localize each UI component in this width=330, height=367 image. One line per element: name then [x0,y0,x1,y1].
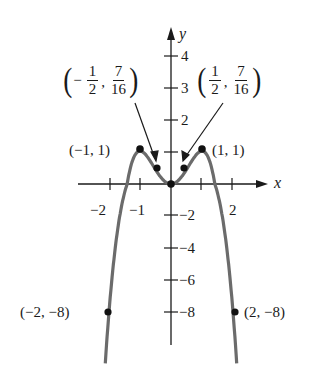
point-pos-half [180,164,187,171]
y-tick-3: 3 [181,81,189,96]
label-neg2-neg8: (−2, −8) [20,305,69,320]
fraction-x: 12 [209,64,221,97]
point-pos2-neg8 [231,308,238,315]
x-tick-2: 2 [229,203,237,218]
x-axis-label: x [274,175,281,190]
point-neg-half [153,164,160,171]
point-neg1-1 [136,145,144,153]
x-axis-arrow-icon [256,180,268,188]
label-pos2-neg8: (2, −8) [244,305,285,320]
point-neg2-neg8 [104,308,111,315]
point-origin [167,180,175,188]
y-tick-4: 4 [181,49,189,64]
fraction-x: 12 [87,64,99,97]
y-tick-neg4: −4 [179,241,195,256]
y-tick-neg8: −8 [179,305,195,320]
y-axis-label: y [179,26,186,41]
y-axis-arrow-icon [167,27,175,40]
leader-arrows [135,103,223,161]
point-pos1-1 [198,145,206,153]
x-tick-neg2: −2 [90,203,106,218]
fraction-y: 716 [111,64,126,97]
y-tick-neg2: −2 [179,208,195,223]
label-pos-half-point: ( 12 , 716 ) [196,63,262,97]
x-tick-neg1: −1 [129,203,145,218]
fraction-y: 716 [234,64,249,97]
label-pos1-1: (1, 1) [212,143,245,158]
y-tick-neg6: −6 [179,273,195,288]
y-tick-2: 2 [181,113,189,128]
label-neg1-1: (−1, 1) [69,143,110,158]
label-neg-half-point: ( − 12 , 716 ) [62,63,139,97]
